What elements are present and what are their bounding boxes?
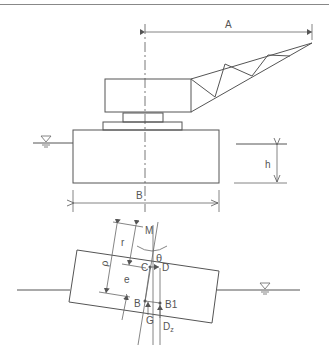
upright-view: A h bbox=[33, 19, 312, 212]
water-level-symbol-right bbox=[260, 283, 270, 294]
heeled-view: θ M C D B B1 G Dz ρ r bbox=[17, 222, 300, 345]
water-level-symbol-left bbox=[41, 136, 51, 147]
dimension-a: A bbox=[145, 19, 312, 40]
label-b1: B1 bbox=[165, 299, 178, 310]
dimension-b: B bbox=[73, 190, 219, 212]
crane-boom bbox=[191, 43, 312, 112]
crane-house bbox=[105, 79, 191, 112]
label-h: h bbox=[265, 159, 271, 170]
label-m: M bbox=[145, 225, 153, 236]
label-b-width: B bbox=[136, 190, 143, 201]
label-e: e bbox=[124, 274, 130, 285]
theta-arc bbox=[137, 246, 167, 251]
label-rho: ρ bbox=[98, 259, 110, 267]
heeled-pontoon bbox=[69, 250, 219, 323]
dimension-rho: ρ bbox=[98, 222, 143, 297]
label-g: G bbox=[146, 315, 154, 326]
slewing-ring bbox=[123, 113, 163, 122]
crane-pontoon-stability-diagram: A h bbox=[0, 0, 329, 354]
label-a: A bbox=[225, 19, 232, 30]
pontoon bbox=[73, 130, 219, 183]
label-r: r bbox=[121, 237, 125, 248]
label-b: B bbox=[134, 298, 141, 309]
crane-base bbox=[103, 122, 182, 130]
tilted-center-line bbox=[138, 222, 158, 345]
line-b-b1 bbox=[145, 301, 160, 303]
label-dz: Dz bbox=[163, 321, 174, 333]
dimension-h: h bbox=[234, 145, 287, 183]
label-d: D bbox=[162, 262, 169, 273]
